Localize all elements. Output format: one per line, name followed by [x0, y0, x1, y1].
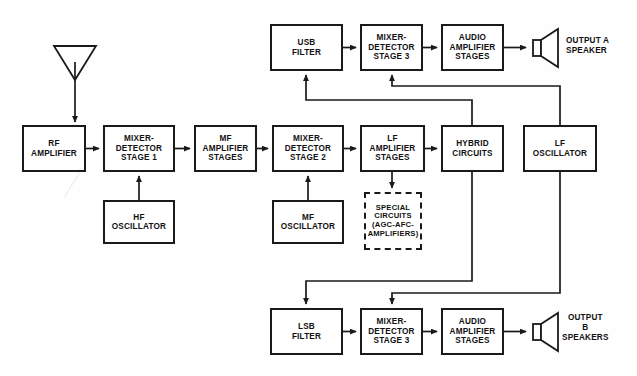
- block-special-circuits[interactable]: SPECIAL CIRCUITS (AGC-AFC- AMPLIFIERS): [364, 192, 422, 250]
- block-mixer-detector-3-top[interactable]: MIXER- DETECTOR STAGE 3: [360, 24, 423, 71]
- antenna-icon: [54, 46, 96, 80]
- block-audio-amplifier-stages-a[interactable]: AUDIO AMPLIFIER STAGES: [441, 24, 504, 71]
- output-a-speaker-label: OUTPUT A SPEAKER: [566, 36, 609, 56]
- wire-hybrid-to-usb: [306, 75, 472, 125]
- block-lsb-filter[interactable]: LSB FILTER: [270, 308, 343, 355]
- block-mixer-detector-3-bottom[interactable]: MIXER- DETECTOR STAGE 3: [360, 308, 423, 355]
- output-b-speakers-label: OUTPUT B SPEAKERS: [562, 313, 609, 343]
- block-hybrid-circuits[interactable]: HYBRID CIRCUITS: [441, 125, 504, 172]
- block-rf-amplifier[interactable]: RF AMPLIFIER: [22, 125, 86, 172]
- block-diagram-canvas: RF AMPLIFIER MIXER- DETECTOR STAGE 1 MF …: [0, 0, 637, 376]
- block-mf-oscillator[interactable]: MF OSCILLATOR: [272, 200, 344, 244]
- block-usb-filter[interactable]: USB FILTER: [270, 24, 343, 71]
- block-lf-oscillator[interactable]: LF OSCILLATOR: [523, 125, 597, 172]
- block-mf-amplifier-stages[interactable]: MF AMPLIFIER STAGES: [194, 125, 257, 172]
- block-hf-oscillator[interactable]: HF OSCILLATOR: [103, 200, 175, 244]
- block-lf-amplifier-stages[interactable]: LF AMPLIFIER STAGES: [360, 125, 425, 172]
- block-mixer-detector-2[interactable]: MIXER- DETECTOR STAGE 2: [272, 125, 344, 172]
- block-mixer-detector-1[interactable]: MIXER- DETECTOR STAGE 1: [103, 125, 175, 172]
- block-audio-amplifier-stages-b[interactable]: AUDIO AMPLIFIER STAGES: [441, 308, 504, 355]
- speaker-icon-b: [533, 313, 558, 351]
- speaker-icon-a: [533, 29, 558, 67]
